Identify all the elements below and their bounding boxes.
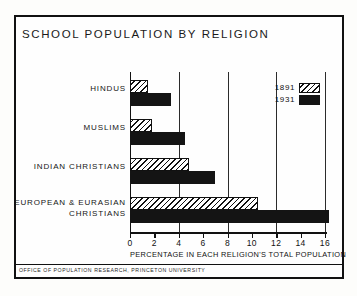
x-tick-label: 10 [247, 238, 257, 248]
x-axis-title: PERCENTAGE IN EACH RELIGION'S TOTAL POPU… [130, 250, 327, 259]
bar [130, 132, 185, 145]
legend-label-1931: 1931 [275, 95, 295, 104]
category-label: INDIAN CHRISTIANS [0, 161, 126, 172]
bar [130, 171, 215, 184]
category-label: EUROPEAN & EURASIANCHRISTIANS [0, 197, 126, 219]
category-label-line: CHRISTIANS [0, 208, 126, 219]
bar [130, 158, 189, 171]
footer-divider [16, 264, 342, 265]
footer-credit: OFFICE OF POPULATION RESEARCH, PRINCETON… [19, 267, 205, 273]
legend-item-1931: 1931 [258, 94, 320, 105]
x-tick-label: 6 [201, 238, 206, 248]
category-label-line: MUSLIMS [0, 122, 126, 133]
category-label: MUSLIMS [0, 122, 126, 133]
x-tick-label: 4 [176, 238, 181, 248]
legend-item-1891: 1891 [258, 82, 320, 93]
category-label-line: EUROPEAN & EURASIAN [0, 197, 126, 208]
category-label: HINDUS [0, 83, 126, 94]
bar [130, 197, 258, 210]
x-tick-label: 0 [127, 238, 132, 248]
x-tick-label: 16 [320, 238, 330, 248]
bar [130, 80, 148, 93]
x-tick-label: 14 [295, 238, 305, 248]
category-label-line: HINDUS [0, 83, 126, 94]
x-tick-label: 8 [225, 238, 230, 248]
chart-figure: SCHOOL POPULATION BY RELIGION 0246810121… [0, 0, 357, 296]
gridline-16 [325, 72, 326, 232]
x-tick-label: 2 [152, 238, 157, 248]
bar [130, 93, 171, 106]
category-label-line: INDIAN CHRISTIANS [0, 161, 126, 172]
legend-label-1891: 1891 [275, 83, 295, 92]
legend-swatch-solid-icon [299, 95, 320, 105]
x-tick-label: 12 [271, 238, 281, 248]
legend: 1891 1931 [258, 82, 320, 106]
legend-swatch-hatched-icon [299, 83, 320, 93]
page-title: SCHOOL POPULATION BY RELIGION [22, 28, 270, 40]
bar [130, 210, 329, 223]
bar [130, 119, 152, 132]
